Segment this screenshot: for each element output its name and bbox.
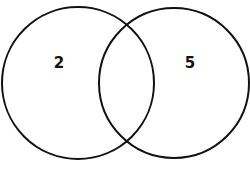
venn-diagram: 2 5: [0, 0, 250, 169]
right-circle: [99, 8, 249, 158]
right-only-label: 5: [185, 54, 195, 72]
left-only-label: 2: [54, 54, 64, 72]
left-circle: [2, 7, 154, 159]
